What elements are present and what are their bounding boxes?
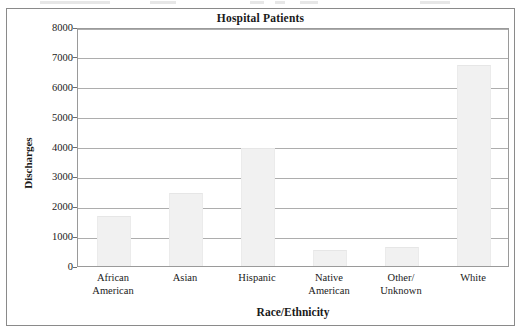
bar [385, 247, 418, 266]
scan-speck [40, 1, 110, 4]
y-tick-label: 7000 [27, 53, 73, 64]
x-tick-label-line: American [293, 284, 365, 297]
y-tick-label: 2000 [27, 202, 73, 213]
scan-speck [420, 1, 450, 4]
x-axis-title: Race/Ethnicity [77, 306, 509, 318]
x-tick-label-line: American [77, 284, 149, 297]
y-axis-tick-labels: 010002000300040005000600070008000 [27, 28, 73, 267]
scan-speck [275, 1, 285, 4]
scan-speck [300, 1, 318, 4]
bar [313, 250, 346, 266]
bar [169, 193, 202, 266]
y-tick-label: 0 [27, 262, 73, 273]
scan-artifact [0, 0, 523, 6]
y-tick-label: 4000 [27, 142, 73, 153]
scan-speck [250, 1, 264, 4]
y-tick-label: 6000 [27, 83, 73, 94]
bar [241, 148, 274, 266]
x-axis-tick-labels: AfricanAmericanAsianHispanicNativeAmeric… [77, 271, 509, 305]
scan-speck [150, 1, 176, 4]
chart-title: Hospital Patients [7, 12, 514, 24]
x-tick-label-line: White [437, 271, 509, 284]
x-tick-label: NativeAmerican [293, 271, 365, 297]
x-tick-label: Other/Unknown [365, 271, 437, 297]
x-tick-label: Hispanic [221, 271, 293, 284]
chart-figure-frame: Hospital Patients Discharges 01000200030… [6, 8, 515, 326]
x-tick-label-line: African [77, 271, 149, 284]
x-tick-label: AfricanAmerican [77, 271, 149, 297]
bars-layer [78, 29, 508, 266]
x-tick-label: Asian [149, 271, 221, 284]
y-tick-label: 5000 [27, 112, 73, 123]
bar [97, 216, 130, 266]
x-tick-label-line: Other/ [365, 271, 437, 284]
x-tick-label-line: Asian [149, 271, 221, 284]
y-tick-label: 3000 [27, 172, 73, 183]
bar [457, 65, 490, 266]
plot-area [77, 28, 509, 267]
x-tick-label-line: Unknown [365, 284, 437, 297]
x-tick-label-line: Native [293, 271, 365, 284]
x-tick-label-line: Hispanic [221, 271, 293, 284]
x-tick-label: White [437, 271, 509, 284]
y-tick-label: 1000 [27, 232, 73, 243]
y-tick-label: 8000 [27, 23, 73, 34]
